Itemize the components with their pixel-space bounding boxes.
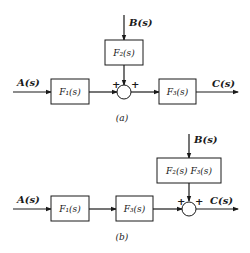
sum-sign-top-b: + xyxy=(195,196,203,207)
diagram-b: B(s) F₂(s) F₃(s) A(s) F₁(s) F₃(s) + + C(… xyxy=(13,134,238,242)
output-label-b: C(s) xyxy=(210,195,233,206)
caption-b: (b) xyxy=(116,232,129,242)
sum-sign-left-a: + xyxy=(112,79,120,90)
output-label-a: C(s) xyxy=(212,78,235,89)
block-f3-b-label: F₃(s) xyxy=(123,204,146,214)
input-label-b: A(s) xyxy=(16,194,40,205)
block-f2f3-b-label: F₂(s) F₃(s) xyxy=(165,166,212,176)
block-diagrams: B(s) F₂(s) A(s) F₁(s) + + F₃(s) C(s) (a) xyxy=(0,0,250,253)
block-f2-a-label: F₂(s) xyxy=(112,48,135,58)
block-f3-a-label: F₃(s) xyxy=(166,87,189,97)
disturbance-label-b: B(s) xyxy=(193,134,218,145)
sum-sign-top-a: + xyxy=(131,79,139,90)
input-label-a: A(s) xyxy=(16,77,40,88)
sum-sign-left-b: + xyxy=(177,196,185,207)
diagram-a: B(s) F₂(s) A(s) F₁(s) + + F₃(s) C(s) (a) xyxy=(13,15,238,123)
caption-a: (a) xyxy=(116,113,129,123)
disturbance-label-a: B(s) xyxy=(128,17,153,28)
block-f1-a-label: F₁(s) xyxy=(58,87,81,97)
block-f1-b-label: F₁(s) xyxy=(58,204,81,214)
